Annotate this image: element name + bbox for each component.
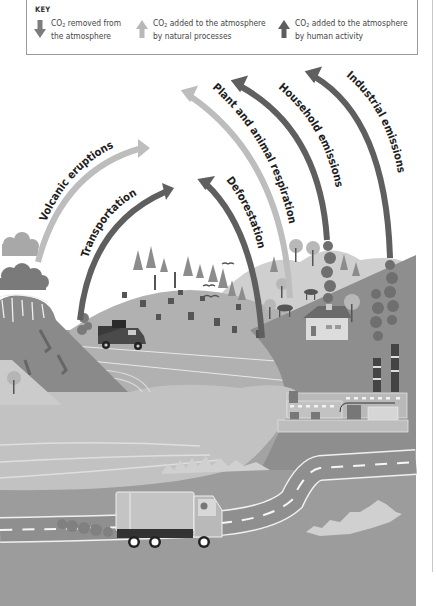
key-item-human: CO2 added to the atmosphereby human acti… xyxy=(278,18,408,41)
arrow-up-dark-icon xyxy=(278,20,290,38)
arrow-up-light-icon xyxy=(136,20,148,38)
key-title: KEY xyxy=(35,5,50,14)
label-deforestation: Deforestation xyxy=(224,174,269,250)
label-plant-animal-respiration: Plant and animal respiration xyxy=(210,81,299,225)
key-legend: KEY CO2 removed fromthe atmosphere CO2 a… xyxy=(26,0,418,55)
key-item-removed: CO2 removed fromthe atmosphere xyxy=(34,18,121,41)
label-transportation: Transportation xyxy=(78,186,138,259)
arrow-labels: Volcanic eruptions Transportation Defore… xyxy=(0,0,436,606)
label-industrial-emissions: Industrial emissions xyxy=(344,68,408,174)
key-item-natural: CO2 added to the atmosphereby natural pr… xyxy=(136,18,266,41)
label-household-emissions: Household emissions xyxy=(276,80,346,188)
arrow-down-icon xyxy=(34,20,46,38)
page-edge-line xyxy=(432,0,433,572)
